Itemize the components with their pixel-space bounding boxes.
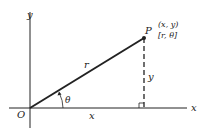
radius-line <box>30 38 144 108</box>
angle-arc <box>60 94 64 109</box>
point-name-label: P <box>144 25 152 36</box>
point-polar-label: [r, θ] <box>158 31 178 40</box>
angle-arrowhead-icon <box>58 92 62 96</box>
x-axis-label: x <box>191 102 197 113</box>
polar-coordinates-diagram: y x O x r y θ P (x, y) [r, θ] <box>0 0 202 132</box>
point-cartesian-label: (x, y) <box>158 20 178 29</box>
horizontal-segment-label: x <box>89 110 95 121</box>
right-angle-marker <box>139 103 144 108</box>
radius-label: r <box>84 59 90 70</box>
origin-label: O <box>17 109 25 120</box>
vertical-segment-label: y <box>147 71 154 82</box>
point-p <box>142 36 146 40</box>
y-axis-label: y <box>26 9 33 20</box>
angle-label: θ <box>65 95 71 105</box>
